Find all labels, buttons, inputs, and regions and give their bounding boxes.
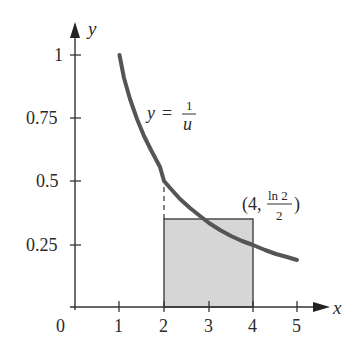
x-tick-label-4: 4 [248, 316, 257, 336]
svg-text:2: 2 [276, 208, 283, 223]
y-tick-label-075: 0.75 [26, 108, 58, 128]
svg-text:ln 2: ln 2 [268, 188, 288, 203]
svg-text:1: 1 [186, 98, 193, 113]
svg-text:y: y [145, 103, 155, 123]
y-axis-label: y [86, 18, 97, 39]
y-tick-label-025: 0.25 [26, 235, 58, 255]
y-axis-arrow-icon [70, 22, 80, 38]
y-tick-label-1: 1 [54, 45, 63, 65]
x-tick-label-5: 5 [292, 316, 301, 336]
x-tick-label-1: 1 [114, 316, 123, 336]
chart: y x 0 1 2 3 4 5 1 0.75 0.5 0.25 y = 1 u … [0, 0, 357, 355]
svg-text:u: u [183, 114, 192, 134]
y-tick-label-05: 0.5 [36, 171, 59, 191]
x-axis-arrow-icon [313, 302, 330, 312]
shaded-rectangle [164, 219, 253, 307]
svg-text:=: = [162, 103, 172, 123]
svg-text:(4,: (4, [242, 194, 262, 215]
x-tick-label-0: 0 [56, 316, 65, 336]
x-tick-label-3: 3 [204, 316, 213, 336]
svg-text:): ) [294, 194, 300, 215]
point-label: (4, ln 2 2 ) [242, 188, 300, 223]
x-axis-label: x [332, 297, 342, 318]
curve-equation-label: y = 1 u [145, 98, 196, 134]
x-tick-label-2: 2 [159, 316, 168, 336]
